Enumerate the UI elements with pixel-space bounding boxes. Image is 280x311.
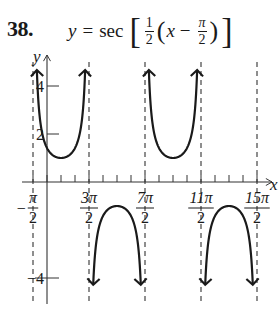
y-axis-label: y [31,47,41,66]
svg-text:−: − [17,200,26,217]
x-tick-label: 11π2 [188,189,214,226]
svg-text:11π: 11π [190,189,214,206]
curve-branch-up [149,70,197,158]
svg-text:3π: 3π [80,189,98,206]
curve-branch-down [93,206,141,285]
svg-text:2: 2 [85,209,93,226]
y-tick-label: 4 [36,78,44,95]
x-tick-label: 3π2 [80,189,98,226]
x-tick-label: π2− [17,189,38,226]
axes [22,55,272,304]
x-axis-label: x [269,175,278,194]
svg-text:15π: 15π [245,189,270,206]
svg-text:2: 2 [29,209,37,226]
x-tick-label: 15π2 [244,189,270,226]
svg-text:π: π [29,189,38,206]
svg-text:2: 2 [197,209,205,226]
y-tick-label: 2 [36,126,44,143]
x-tick-label: 7π2 [136,189,154,226]
tick-labels: yxπ2−3π27π211π215π242−4 [17,47,278,287]
svg-text:2: 2 [253,209,261,226]
svg-text:7π: 7π [137,189,154,206]
y-tick-label: −4 [27,270,44,287]
svg-text:2: 2 [141,209,149,226]
curve-branch-down [205,206,253,285]
secant-graph: yxπ2−3π27π211π215π242−4 [0,0,280,311]
curve-branch-up [37,70,85,158]
x-ticks [33,175,257,182]
